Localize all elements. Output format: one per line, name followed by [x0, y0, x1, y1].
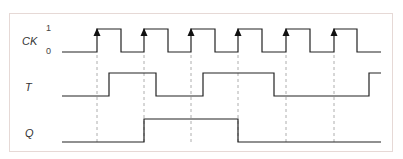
q-waveform — [62, 119, 381, 142]
waveforms — [0, 0, 403, 159]
clock-dashed-lines — [97, 55, 334, 142]
t-waveform — [62, 73, 381, 96]
